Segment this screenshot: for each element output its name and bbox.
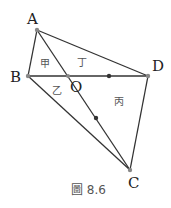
segment-AB (28, 30, 37, 76)
region-label-yi: 乙 (52, 85, 62, 96)
label-D: D (152, 57, 164, 75)
point-D (146, 74, 150, 78)
point-A (35, 28, 39, 32)
midpoint-BD-marker (107, 74, 111, 78)
label-A: A (26, 10, 38, 28)
label-O: O (70, 78, 82, 96)
region-label-bing: 丙 (114, 96, 124, 107)
label-B: B (10, 68, 21, 86)
segment-AD (37, 30, 148, 76)
midpoint-AC-marker (94, 116, 98, 120)
segment-DC (130, 76, 148, 170)
label-C: C (128, 174, 139, 192)
point-C (128, 168, 132, 172)
region-label-ding: 丁 (77, 57, 87, 68)
figure-caption: 圖 8.6 (71, 183, 106, 197)
quadrilateral-diagram: A B O D C 甲 丁 乙 丙 圖 8.6 (0, 0, 171, 208)
point-B (26, 74, 30, 78)
region-label-jia: 甲 (40, 58, 50, 69)
